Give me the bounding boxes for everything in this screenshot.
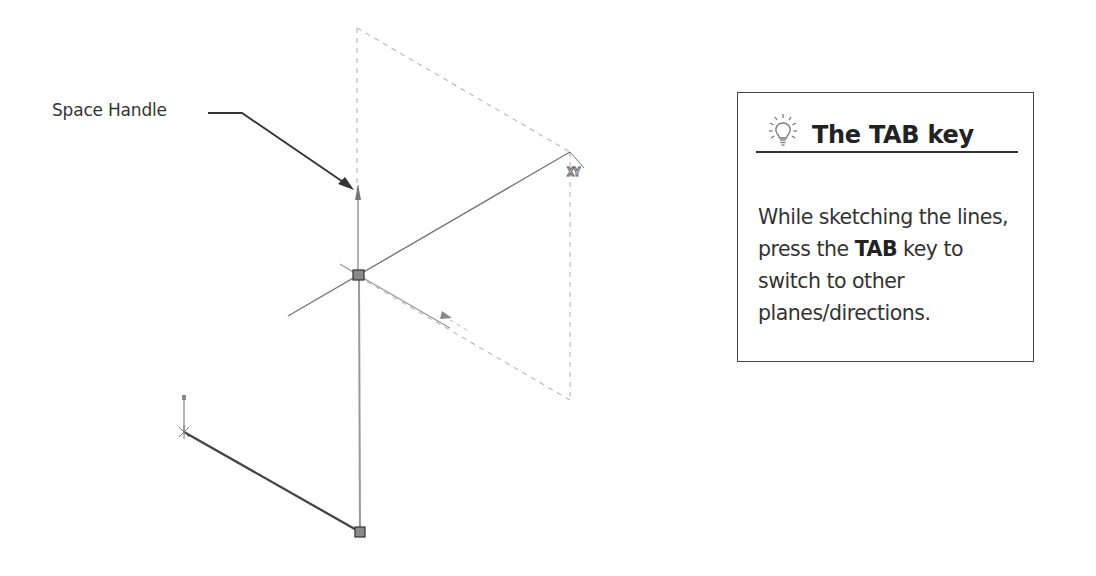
space-handle-x-axis <box>358 275 450 328</box>
space-handle-label: Space Handle <box>52 100 167 120</box>
diagonal-sketch-line <box>184 432 360 532</box>
active-sketch-line <box>288 152 570 316</box>
tip-header: The TAB key <box>756 113 1018 153</box>
lightbulb-icon <box>768 113 798 149</box>
origin-marker-icon <box>179 425 189 439</box>
space-handle-y-arrow[interactable] <box>355 184 361 200</box>
tip-title: The TAB key <box>812 121 974 149</box>
callout-leader-arrow <box>208 113 349 186</box>
plane-indicator-xy: XY <box>567 165 579 179</box>
tip-body: While sketching the lines, press the TAB… <box>758 201 1028 329</box>
tip-box: The TAB key While sketching the lines, p… <box>737 92 1034 362</box>
space-handle-x-arrow <box>440 311 452 319</box>
callout-arrowhead <box>338 177 354 190</box>
tip-body-key: TAB <box>855 237 897 261</box>
vertical-sketch-line <box>359 275 360 532</box>
bottom-endpoint[interactable] <box>355 527 365 537</box>
space-handle-endpoint[interactable] <box>353 270 364 280</box>
